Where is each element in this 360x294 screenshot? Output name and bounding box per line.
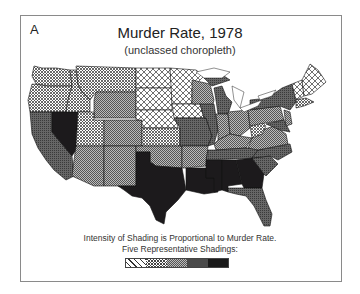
state-south-dakota	[136, 88, 172, 110]
state-kansas	[142, 128, 180, 146]
state-maine	[302, 64, 326, 96]
state-washington	[32, 66, 72, 86]
state-iowa	[172, 104, 204, 118]
state-new-mexico	[104, 146, 136, 186]
state-nebraska	[136, 110, 178, 128]
state-north-dakota	[136, 68, 172, 88]
state-florida	[228, 188, 272, 226]
legend-swatch-medium	[167, 259, 187, 267]
shading-legend	[125, 258, 229, 268]
state-missouri	[174, 118, 212, 146]
caption-shading-note: Intensity of Shading is Proportional to …	[0, 233, 360, 243]
lake-huron	[232, 86, 244, 108]
legend-swatch-lightest	[126, 259, 146, 267]
state-oregon	[28, 84, 72, 112]
state-massachusetts-ct-ri	[296, 98, 314, 108]
legend-swatch-light	[146, 259, 166, 267]
state-michigan	[214, 86, 232, 114]
state-arizona	[72, 146, 104, 186]
state-ohio	[228, 110, 250, 136]
caption-legend-heading: Five Representative Shadings:	[0, 244, 360, 254]
state-arkansas	[182, 146, 208, 168]
state-wyoming	[94, 92, 136, 118]
legend-swatch-dark	[187, 259, 207, 267]
legend-swatch-darkest	[208, 259, 228, 267]
state-colorado	[104, 120, 142, 146]
